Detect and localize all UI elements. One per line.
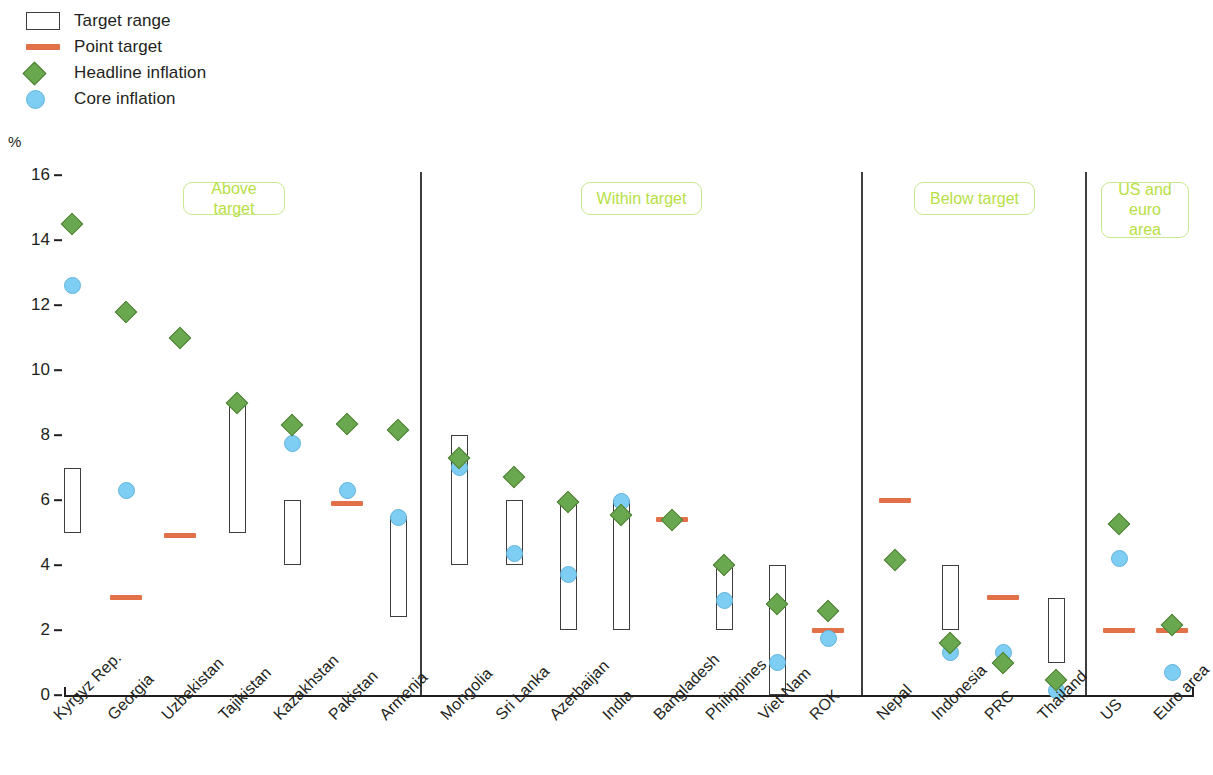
y-axis-tick-mark	[54, 239, 62, 241]
target-range-band	[451, 435, 468, 565]
legend-item-core-inflation: Core inflation	[22, 86, 352, 112]
core-inflation-marker	[118, 482, 135, 499]
legend-label-target-range: Target range	[66, 11, 171, 31]
core-inflation-marker	[451, 459, 468, 476]
headline-inflation-marker	[939, 632, 962, 655]
headline-inflation-marker	[884, 549, 907, 572]
headline-inflation-marker	[766, 593, 789, 616]
core-inflation-marker	[769, 654, 786, 671]
y-axis-tick-mark	[54, 369, 62, 371]
point-target-marker	[987, 595, 1019, 600]
core-inflation-marker	[1111, 550, 1128, 567]
panel-label-within-target: Within target	[581, 182, 702, 215]
x-axis-label-nepal: Nepal	[873, 681, 916, 724]
target-range-band	[390, 516, 407, 617]
x-axis-label-indonesia: Indonesia	[928, 661, 990, 723]
y-axis-tick-mark	[54, 174, 62, 176]
target-range-band	[942, 565, 959, 630]
headline-inflation-marker	[1108, 513, 1131, 536]
core-inflation-marker	[560, 566, 577, 583]
core-inflation-marker	[613, 493, 630, 510]
point-target-marker	[1156, 628, 1188, 633]
point-target-marker	[110, 595, 142, 600]
point-target-marker	[164, 533, 196, 538]
target-range-band	[64, 468, 81, 533]
x-axis-label-euro-area: Euro area	[1150, 661, 1213, 724]
target-range-band	[1048, 598, 1065, 663]
core-inflation-marker	[64, 277, 81, 294]
point-target-swatch	[22, 44, 66, 50]
legend-item-headline-inflation: Headline inflation	[22, 60, 352, 86]
core-inflation-circle-icon	[22, 90, 66, 109]
legend-item-point-target: Point target	[22, 34, 352, 60]
panel-divider	[1085, 172, 1087, 695]
x-axis-label-georgia: Georgia	[104, 670, 157, 723]
target-range-band	[769, 565, 786, 695]
headline-inflation-marker	[503, 466, 526, 489]
headline-inflation-marker	[448, 446, 471, 469]
headline-inflation-marker	[115, 300, 138, 323]
headline-inflation-marker	[817, 599, 840, 622]
y-axis-tick-label: 12	[0, 295, 50, 315]
target-range-band	[229, 403, 246, 533]
y-axis-tick-mark	[54, 694, 62, 696]
legend-label-headline-inflation: Headline inflation	[66, 63, 206, 83]
legend-label-point-target: Point target	[66, 37, 162, 57]
y-axis-tick-mark	[54, 499, 62, 501]
legend-item-target-range: Target range	[22, 8, 352, 34]
legend-label-core-inflation: Core inflation	[66, 89, 176, 109]
panel-divider	[861, 172, 863, 695]
panel-label-above-target: Above target	[183, 182, 285, 215]
point-target-marker	[331, 501, 363, 506]
y-axis-tick-mark	[54, 434, 62, 436]
core-inflation-marker	[995, 644, 1012, 661]
x-axis-label-prc: PRC	[981, 687, 1018, 724]
core-inflation-marker	[820, 630, 837, 647]
y-axis-tick-label: 2	[0, 620, 50, 640]
headline-inflation-marker	[661, 508, 684, 531]
core-inflation-marker	[942, 644, 959, 661]
x-axis-label-rok: ROK	[806, 686, 843, 723]
y-axis-tick-label: 8	[0, 425, 50, 445]
core-inflation-marker	[716, 592, 733, 609]
x-axis-label-india: India	[599, 686, 637, 724]
y-axis-unit-label: %	[8, 133, 21, 150]
headline-inflation-marker	[557, 490, 580, 513]
x-axis-label-sri-lanka: Sri Lanka	[492, 663, 553, 724]
y-axis-tick-label: 16	[0, 165, 50, 185]
x-axis-label-tajikistan: Tajikistan	[215, 664, 275, 724]
headline-inflation-marker	[336, 412, 359, 435]
y-axis-tick-label: 10	[0, 360, 50, 380]
target-range-band	[284, 500, 301, 565]
target-range-band	[613, 500, 630, 630]
panel-label-below-target: Below target	[914, 182, 1035, 215]
panel-label-us-euro-area: US and euro area	[1101, 182, 1189, 238]
chart-legend: Target range Point target Headline infla…	[22, 8, 352, 112]
core-inflation-marker	[284, 435, 301, 452]
core-inflation-marker	[390, 509, 407, 526]
core-inflation-marker	[506, 545, 523, 562]
target-range-band	[506, 500, 523, 565]
core-inflation-marker	[339, 482, 356, 499]
point-target-marker	[1103, 628, 1135, 633]
y-axis-tick-label: 4	[0, 555, 50, 575]
core-inflation-marker	[1164, 664, 1181, 681]
target-range-band	[560, 500, 577, 630]
headline-inflation-marker	[281, 414, 304, 437]
target-range-band	[716, 565, 733, 630]
x-axis-label-us: US	[1097, 695, 1126, 724]
y-axis-tick-mark	[54, 564, 62, 566]
headline-inflation-marker	[992, 651, 1015, 674]
headline-inflation-marker	[61, 212, 84, 235]
panel-divider	[420, 172, 422, 695]
y-axis-tick-mark	[54, 629, 62, 631]
headline-inflation-marker	[226, 391, 249, 414]
target-range-swatch	[22, 12, 66, 30]
headline-inflation-marker	[1161, 614, 1184, 637]
y-axis-tick-mark	[54, 304, 62, 306]
y-axis-tick-label: 6	[0, 490, 50, 510]
point-target-marker	[879, 498, 911, 503]
point-target-marker	[656, 517, 688, 522]
